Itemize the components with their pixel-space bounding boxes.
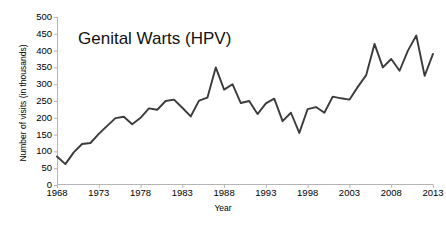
x-tick-label: 2013: [422, 188, 443, 198]
y-tick-label: 350: [36, 62, 52, 72]
y-tick-label: 100: [36, 146, 52, 156]
x-tick-label: 1978: [130, 188, 151, 198]
x-tick-label: 1973: [88, 188, 109, 198]
x-tick-label: 1968: [46, 188, 67, 198]
y-tick-label: 250: [36, 96, 52, 106]
y-tick-label: 400: [36, 46, 52, 56]
x-tick-label: 1998: [297, 188, 318, 198]
x-tick-label: 1993: [255, 188, 276, 198]
x-tick-label: 1983: [172, 188, 193, 198]
y-tick-label: 500: [36, 12, 52, 22]
y-tick-label: 50: [41, 163, 52, 173]
x-tick-label: 2008: [381, 188, 402, 198]
y-tick-label: 150: [36, 130, 52, 140]
x-tick-label: 2003: [339, 188, 360, 198]
x-tick-label: 1988: [214, 188, 235, 198]
x-axis-label: Year: [0, 203, 446, 213]
chart-title: Genital Warts (HPV): [78, 29, 231, 48]
data-series-line: [57, 35, 433, 164]
x-axis-tick-labels: 1968197319781983198819931998200320082013: [0, 188, 446, 202]
y-tick-label: 450: [36, 29, 52, 39]
chart-figure: Number of visits (in thousands) 50045040…: [0, 0, 446, 228]
y-axis-tickmarks: [54, 18, 58, 186]
y-tick-label: 200: [36, 113, 52, 123]
y-tick-label: 300: [36, 79, 52, 89]
